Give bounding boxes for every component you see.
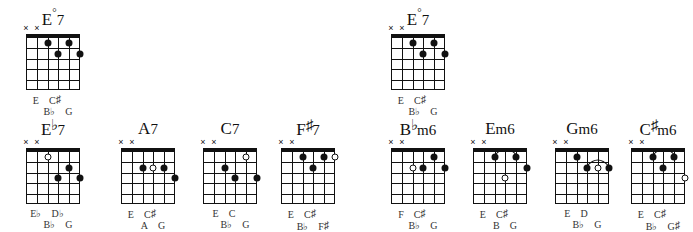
note-name: F♯: [318, 220, 329, 232]
finger-dot-filled: [442, 50, 449, 57]
note-row-lower: B♭G: [373, 220, 463, 231]
fretboard-grid: [391, 148, 445, 204]
finger-dot-open: [409, 164, 416, 171]
note-name: F: [398, 209, 404, 220]
note-accidental: ♭: [50, 219, 55, 230]
fret-line: [26, 59, 80, 60]
note-name: G: [65, 106, 72, 117]
chord-title: B♭m6: [373, 120, 463, 139]
note-row-upper: FC♯: [373, 208, 463, 220]
chord-diagram-c7: C7××ECB♭G: [185, 120, 275, 230]
note-name: E: [213, 208, 219, 219]
note-labels: EC♯B♭G: [373, 94, 463, 117]
string-markers: ××: [473, 139, 527, 148]
title-accidental: ♭: [51, 117, 58, 133]
fret-line: [203, 183, 257, 184]
note-name: A: [141, 220, 148, 231]
mute-x-icon: ×: [200, 138, 205, 147]
chord-title: E♭7: [8, 120, 98, 139]
fret-line: [631, 194, 685, 195]
fret-line: [121, 183, 175, 184]
finger-dot-filled: [66, 164, 73, 171]
fret-line: [555, 194, 609, 195]
chord-title: F♯7: [263, 120, 353, 139]
finger-dot-open: [150, 164, 157, 171]
fret-line: [473, 183, 527, 184]
finger-dot-filled: [606, 164, 613, 171]
note-name: G: [242, 219, 249, 230]
fret-line: [281, 162, 335, 163]
title-root: A: [138, 119, 150, 138]
note-name: D♭: [51, 208, 63, 219]
note-accidental: ♯: [421, 93, 427, 105]
finger-dot-filled: [172, 175, 179, 182]
fret-line: [555, 203, 609, 204]
note-row-lower: AG: [103, 220, 193, 231]
finger-dot-filled: [221, 164, 228, 171]
fret-line: [555, 173, 609, 174]
note-name: G: [65, 219, 72, 230]
finger-dot-open: [44, 154, 51, 161]
note-name: C♯: [304, 208, 316, 220]
string-markers: ××: [631, 139, 685, 148]
mute-x-icon: ×: [470, 138, 475, 147]
finger-dot-filled: [77, 175, 84, 182]
string-markers: ××: [281, 139, 335, 148]
note-row-lower: B♭G♯: [613, 220, 693, 232]
finger-dot-filled: [431, 154, 438, 161]
fret-line: [281, 194, 335, 195]
fret-line: [281, 183, 335, 184]
frets-group: [26, 38, 80, 90]
mute-x-icon: ×: [278, 138, 283, 147]
finger-dot-open: [332, 154, 339, 161]
string-markers: ××: [26, 25, 80, 34]
note-row-upper: EC♯: [103, 208, 193, 220]
note-accidental: ♭: [227, 219, 232, 230]
fret-line: [391, 48, 445, 49]
note-name: G: [158, 220, 165, 231]
chord-diagram-em6: Em6××EC♯BG: [455, 120, 545, 231]
finger-dot-filled: [66, 40, 73, 47]
finger-dot-filled: [409, 40, 416, 47]
mute-x-icon: ×: [23, 24, 28, 33]
finger-dot-filled: [55, 50, 62, 57]
fretboard-grid: [281, 148, 335, 204]
chord-diagram-csharpm6: C♯m6××EC♯B♭G♯: [613, 120, 693, 232]
note-labels: ECB♭G: [185, 208, 275, 230]
note-accidental: ♯: [503, 207, 509, 219]
string-markers: ××: [555, 139, 609, 148]
fret-line: [26, 89, 80, 90]
fretboard-grid: [121, 148, 175, 204]
fret-line: [26, 80, 80, 81]
title-accidental: ♯: [651, 117, 659, 133]
note-accidental: ♯: [675, 219, 681, 231]
fret-line: [281, 173, 335, 174]
finger-dot-filled: [442, 164, 449, 171]
fret-line: [121, 173, 175, 174]
note-row-upper: EC♯: [613, 208, 693, 220]
note-accidental: ♭: [415, 220, 420, 231]
frets-group: [391, 38, 445, 90]
mute-x-icon: ×: [34, 24, 39, 33]
finger-dot-filled: [161, 164, 168, 171]
title-root: G: [566, 119, 578, 138]
string-markers: ××: [121, 139, 175, 148]
string-markers: ××: [26, 139, 80, 148]
note-accidental: ♭: [415, 106, 420, 117]
note-name: B♭: [221, 219, 233, 230]
finger-dot-open: [243, 154, 250, 161]
note-labels: EC♯B♭G: [8, 94, 98, 117]
fret-line: [26, 162, 80, 163]
finger-dot-open: [682, 175, 689, 182]
title-quality: 7: [150, 121, 158, 137]
mute-x-icon: ×: [481, 138, 486, 147]
fret-line: [631, 173, 685, 174]
fret-line: [121, 194, 175, 195]
title-quality: 7: [312, 122, 320, 138]
fret-line: [26, 194, 80, 195]
finger-dot-filled: [139, 164, 146, 171]
fret-line: [391, 173, 445, 174]
note-name: G: [430, 106, 437, 117]
note-name: C♯: [414, 94, 426, 106]
title-root: E: [485, 119, 495, 138]
